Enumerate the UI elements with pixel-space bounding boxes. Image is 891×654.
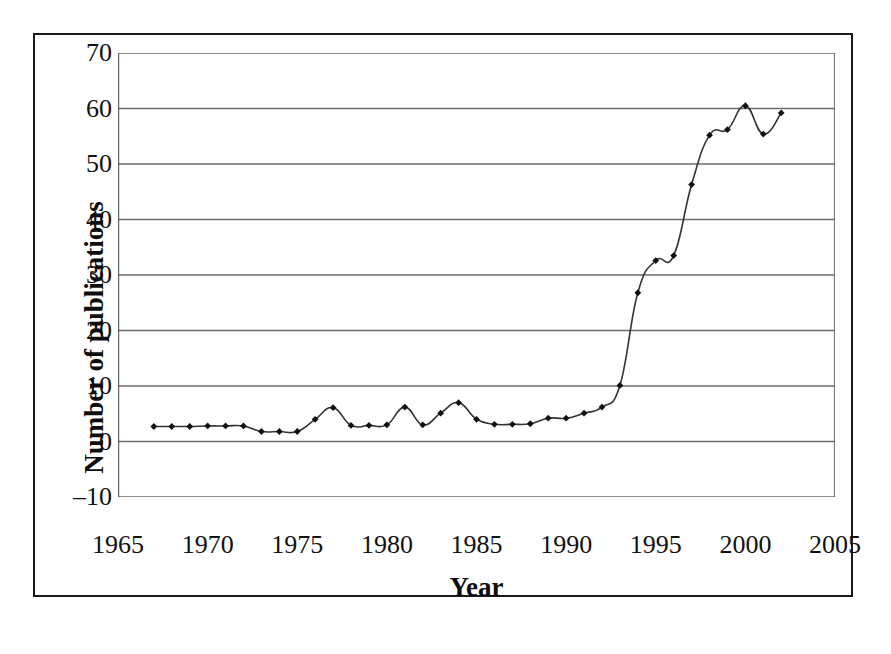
data-point (330, 404, 337, 411)
data-point (491, 421, 498, 428)
x-tick-labels: 196519701975198019851990199520002005 (118, 532, 835, 566)
data-point (258, 428, 265, 435)
gridlines (118, 53, 835, 497)
data-point (168, 423, 175, 430)
data-point (186, 423, 193, 430)
data-point (455, 399, 462, 406)
line-chart-svg (118, 53, 835, 497)
x-tick-label: 1990 (521, 532, 611, 558)
data-point (527, 420, 534, 427)
data-point (401, 404, 408, 411)
x-tick-label: 1985 (432, 532, 522, 558)
data-point (222, 423, 229, 430)
x-tick-label: 2000 (700, 532, 790, 558)
data-markers (150, 102, 784, 435)
data-point (545, 415, 552, 422)
x-tick-label: 1980 (342, 532, 432, 558)
data-point (419, 421, 426, 428)
data-point (366, 422, 373, 429)
y-axis-title-wrap: Number of publications (52, 60, 92, 490)
data-point (294, 428, 301, 435)
x-tick-label: 1970 (163, 532, 253, 558)
data-point (150, 423, 157, 430)
x-tick-label: 1995 (611, 532, 701, 558)
data-line (154, 106, 781, 433)
x-axis-title: Year (118, 572, 835, 603)
data-point (670, 252, 677, 259)
data-point (204, 423, 211, 430)
figure: 706050403020100–10 196519701975198019851… (0, 0, 891, 654)
data-point (688, 181, 695, 188)
data-point (581, 410, 588, 417)
data-point (276, 428, 283, 435)
y-axis-title: Number of publications (79, 148, 110, 528)
x-tick-label: 1965 (73, 532, 163, 558)
plot-area (118, 53, 835, 497)
data-point (617, 382, 624, 389)
x-tick-label: 1975 (252, 532, 342, 558)
data-point (634, 289, 641, 296)
data-point (563, 415, 570, 422)
data-point (240, 423, 247, 430)
x-tick-label: 2005 (790, 532, 880, 558)
data-point (509, 421, 516, 428)
